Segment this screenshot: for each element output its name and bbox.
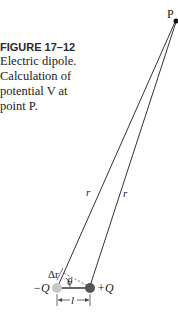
dipole-diagram: P r r Δr θ −Q +Q l bbox=[0, 0, 178, 314]
pos-charge-label: +Q bbox=[97, 281, 114, 295]
angle-label: θ bbox=[67, 275, 73, 287]
line-to-neg-charge bbox=[58, 22, 175, 286]
positive-charge bbox=[85, 283, 95, 293]
line-to-pos-charge bbox=[90, 22, 176, 286]
arrow-right-icon bbox=[85, 298, 89, 302]
negative-charge bbox=[52, 283, 62, 293]
right-r-label: r bbox=[123, 187, 128, 199]
separation-label: l bbox=[71, 294, 74, 306]
neg-charge-label: −Q bbox=[33, 281, 50, 295]
arrow-left-icon bbox=[58, 298, 62, 302]
point-label: P bbox=[167, 7, 174, 21]
left-r-label: r bbox=[86, 186, 91, 198]
delta-r-label: Δr bbox=[48, 268, 59, 280]
